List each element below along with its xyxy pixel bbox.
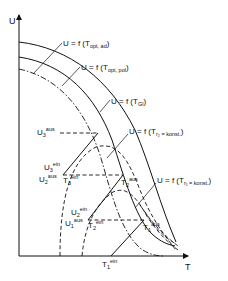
svg-text:U = f (Topt, pol): U = f (Topt, pol)	[81, 63, 129, 73]
label-curve-opt-pol: U = f (Topt, pol)	[81, 63, 129, 73]
svg-text:U = f (Topt, ad): U = f (Topt, ad)	[63, 39, 110, 49]
label-u1-aus: U1aus	[65, 217, 83, 229]
label-curve-r2: U = f (Tr₂ = konst.)	[129, 127, 184, 137]
svg-text:U = f (Tr₂ = konst.): U = f (Tr₂ = konst.)	[129, 127, 184, 137]
leader-r2	[107, 134, 128, 158]
leader-opt-ad	[33, 43, 62, 74]
label-curve-r1: U = f (Tr₁ = konst.)	[157, 176, 212, 186]
label-t1-ein: T1ein	[102, 258, 117, 270]
diag-3	[63, 133, 98, 175]
svg-text:T3ein: T3ein	[63, 174, 78, 186]
label-t2-aus: T2aus	[121, 176, 138, 188]
x-axis-label: T	[185, 262, 191, 272]
label-u3-ein: U3ein	[44, 161, 60, 173]
curve-t-opt-ad	[19, 42, 176, 242]
svg-text:U3aus: U3aus	[37, 126, 55, 138]
label-u3-aus: U3aus	[37, 126, 55, 138]
curve-t-opt-pol	[19, 57, 175, 246]
label-curve-gl: U = f (TGl)	[111, 97, 146, 107]
label-t2-ein: T2ein	[88, 219, 103, 231]
svg-text:U = f (Tr₁ = konst.): U = f (Tr₁ = konst.)	[157, 176, 212, 186]
diag-2	[88, 175, 123, 220]
svg-text:U = f (TGl): U = f (TGl)	[111, 97, 146, 107]
svg-text:T2ein: T2ein	[88, 219, 103, 231]
leader-gl	[100, 100, 110, 112]
y-axis-label: U	[9, 16, 16, 26]
leader-opt-pol	[62, 67, 80, 86]
leader-r1	[135, 183, 156, 208]
svg-text:U3ein: U3ein	[44, 161, 60, 173]
diagram-canvas: U T U = f (Topt, ad) U = f (Topt, pol) U…	[0, 0, 228, 281]
svg-text:U1aus: U1aus	[65, 217, 83, 229]
svg-text:T1ein: T1ein	[102, 258, 117, 270]
svg-text:U2aus: U2aus	[39, 173, 57, 185]
diag-1	[111, 220, 144, 256]
label-t3-ein: T3ein	[63, 174, 78, 186]
svg-text:T2aus: T2aus	[121, 176, 138, 188]
label-curve-opt-ad: U = f (Topt, ad)	[63, 39, 110, 49]
label-u2-aus: U2aus	[39, 173, 57, 185]
